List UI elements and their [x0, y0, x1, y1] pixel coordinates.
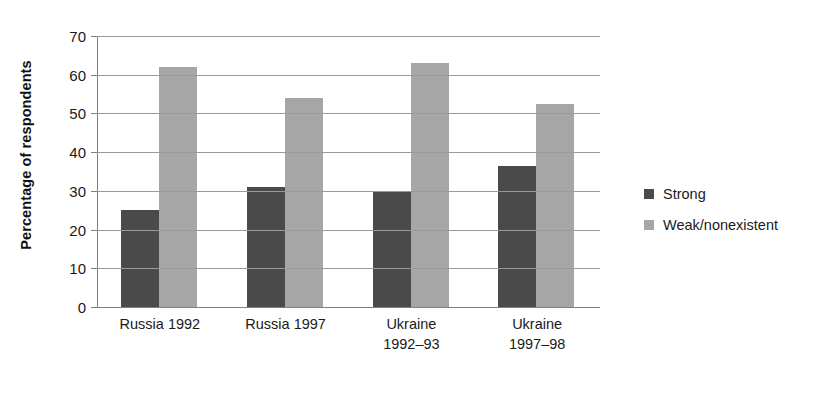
legend-label: Weak/nonexistent	[663, 217, 778, 233]
plot-area	[97, 36, 600, 307]
gridline	[97, 75, 600, 76]
gridline	[97, 113, 600, 114]
y-axis-tick	[91, 268, 97, 269]
bar	[373, 191, 411, 307]
y-axis-tick-label: 40	[11, 144, 97, 161]
legend-label: Strong	[663, 186, 706, 202]
bar	[498, 166, 536, 307]
legend-item[interactable]: Weak/nonexistent	[644, 209, 778, 240]
y-axis-tick-label: 70	[11, 28, 97, 45]
y-axis-tick	[91, 191, 97, 192]
category-label-line1: Russia 1997	[245, 316, 326, 332]
y-axis-tick-label: 10	[11, 260, 97, 277]
category-label-line1: Russia 1992	[120, 316, 201, 332]
y-axis-tick	[91, 230, 97, 231]
gridline	[97, 268, 600, 269]
legend-swatch	[644, 189, 654, 199]
x-axis-category-label: Ukraine1997–98	[474, 314, 600, 354]
bar-groups	[97, 36, 600, 307]
bar	[247, 187, 285, 307]
legend-swatch	[644, 220, 654, 230]
y-axis-tick-label: 60	[11, 66, 97, 83]
y-axis-tick-label: 20	[11, 221, 97, 238]
bar-group	[223, 36, 349, 307]
y-axis-tick-label: 30	[11, 182, 97, 199]
x-axis-category-label: Ukraine1992–93	[349, 314, 475, 354]
bar-group	[97, 36, 223, 307]
legend: StrongWeak/nonexistent	[644, 178, 778, 240]
y-axis-tick	[91, 36, 97, 37]
bar-group	[474, 36, 600, 307]
gridline	[97, 230, 600, 231]
bar-chart: Percentage of respondents 70605040302010…	[0, 0, 832, 400]
y-axis-tick-label: 0	[11, 299, 97, 316]
bar-group	[349, 36, 475, 307]
legend-item[interactable]: Strong	[644, 178, 778, 209]
x-axis-line	[97, 307, 600, 308]
category-label-line1: Ukraine	[386, 316, 436, 332]
bar	[159, 67, 197, 307]
gridline	[97, 152, 600, 153]
x-axis-category-labels: Russia 1992Russia 1997Ukraine1992–93Ukra…	[97, 314, 600, 394]
x-axis-category-label: Russia 1992	[97, 314, 223, 334]
bar	[121, 210, 159, 307]
y-axis-tick	[91, 307, 97, 308]
x-axis-category-label: Russia 1997	[223, 314, 349, 334]
bar	[536, 104, 574, 307]
y-axis-tick-label: 50	[11, 105, 97, 122]
y-axis-tick	[91, 113, 97, 114]
category-label-line1: Ukraine	[512, 316, 562, 332]
y-axis-tick	[91, 152, 97, 153]
y-axis-tick	[91, 75, 97, 76]
category-label-line2: 1992–93	[349, 334, 475, 354]
category-label-line2: 1997–98	[474, 334, 600, 354]
bar	[411, 63, 449, 307]
gridline	[97, 191, 600, 192]
y-axis-tick-labels: 706050403020100	[0, 36, 97, 307]
gridline	[97, 36, 600, 37]
bar	[285, 98, 323, 307]
